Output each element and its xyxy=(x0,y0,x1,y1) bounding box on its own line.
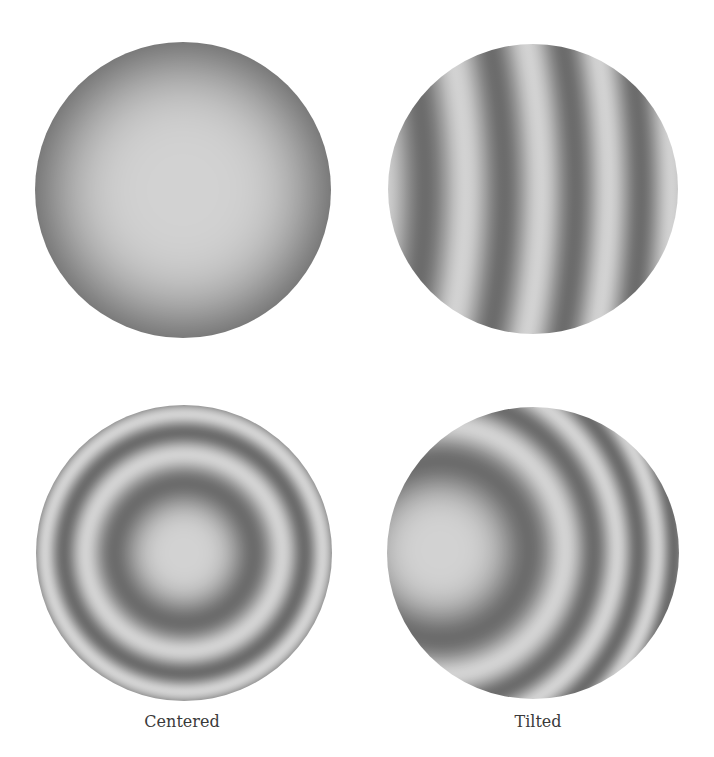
label-centered: Centered xyxy=(144,712,219,731)
fringe-panel-bottom-left xyxy=(36,405,332,701)
fringe-panel-top-left xyxy=(35,42,331,338)
fringe-panel-top-right xyxy=(388,44,678,334)
fringe-figure xyxy=(0,0,714,757)
fringe-panel-bottom-right xyxy=(387,407,679,699)
label-tilted: Tilted xyxy=(514,712,561,731)
